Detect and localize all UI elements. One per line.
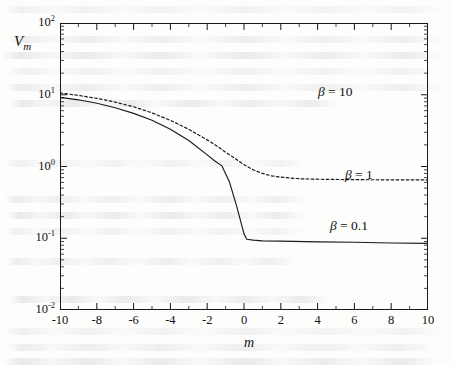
beta-symbol: β — [330, 218, 337, 233]
y-tick-base: 10 — [38, 87, 51, 101]
x-axis-tick-label: 0 — [241, 314, 247, 327]
y-tick-base: 10 — [38, 159, 51, 173]
y-tick-exponent: 0 — [51, 156, 55, 166]
y-axis-tick-label: 102 — [38, 16, 55, 29]
bleed-text-line — [4, 328, 444, 335]
x-axis-tick-label: 8 — [388, 314, 394, 327]
y-tick-exponent: -2 — [48, 300, 55, 310]
bleed-text-line — [4, 358, 440, 365]
y-tick-exponent: -1 — [48, 228, 55, 238]
x-axis-tick-label: -8 — [92, 314, 102, 327]
annotation-value: = 10 — [325, 84, 353, 99]
y-axis-tick-label: 100 — [38, 160, 55, 173]
x-axis-tick-label: -2 — [202, 314, 212, 327]
annotation-value: = 0.1 — [337, 218, 368, 233]
x-axis-tick-label: 4 — [314, 314, 320, 327]
x-axis-title: m — [244, 336, 254, 350]
curve-annotation: β = 0.1 — [330, 219, 368, 233]
x-axis-tick-label: -6 — [128, 314, 138, 327]
x-axis-tick-label: 6 — [351, 314, 357, 327]
bleed-text-line — [6, 344, 436, 351]
bleed-text-line — [4, 6, 444, 13]
y-tick-base: 10 — [38, 15, 51, 29]
beta-symbol: β — [318, 84, 325, 99]
x-axis-tick-label: 2 — [278, 314, 284, 327]
y-tick-exponent: 1 — [51, 85, 55, 95]
beta-symbol: β — [345, 167, 352, 182]
annotation-value: = 1 — [352, 167, 373, 182]
figure-root: Vm 10-210-1100101102 -10-8-6-4-20246810 … — [0, 0, 453, 365]
curve-annotation: β = 1 — [345, 168, 373, 182]
x-axis-tick-label: 10 — [422, 314, 435, 327]
curve-annotation: β = 10 — [318, 85, 353, 99]
y-tick-base: 10 — [35, 230, 48, 244]
y-tick-base: 10 — [35, 302, 48, 316]
y-axis-tick-label: 10-1 — [35, 231, 55, 244]
y-axis-tick-labels: 10-210-1100101102 — [0, 0, 55, 365]
y-axis-tick-label: 101 — [38, 88, 55, 101]
x-axis-tick-label: -10 — [52, 314, 69, 327]
x-axis-tick-label: -4 — [165, 314, 175, 327]
y-tick-exponent: 2 — [51, 13, 55, 23]
